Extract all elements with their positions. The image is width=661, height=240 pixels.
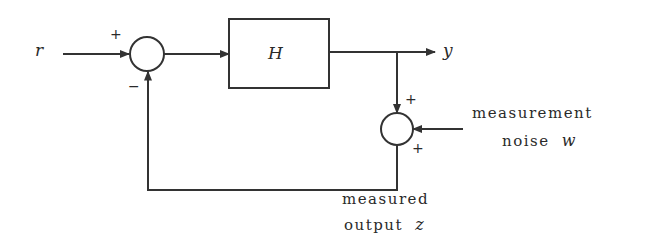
sum2-top-plus-sign: + [405, 92, 417, 106]
measured-symbol-z: z [415, 215, 425, 234]
sum1-minus-sign: − [128, 79, 140, 93]
input-label-r: r [35, 42, 43, 59]
sum2-right-plus-sign: + [412, 141, 424, 155]
noise-label-line2: noise w [502, 133, 577, 149]
feedback-path [148, 72, 397, 191]
output-word: output [344, 216, 403, 234]
sum1-plus-sign: + [110, 27, 122, 41]
output-label-y: y [443, 42, 453, 59]
noise-symbol-w: w [562, 131, 577, 150]
measured-output-line2: output z [344, 217, 425, 233]
summing-junction-1 [130, 37, 164, 71]
noise-label-line1: measurement [472, 106, 593, 121]
noise-word: noise [502, 132, 550, 150]
summing-junction-2 [381, 113, 413, 145]
measured-output-line1: measured [342, 192, 429, 207]
block-label-h: H [268, 45, 283, 62]
